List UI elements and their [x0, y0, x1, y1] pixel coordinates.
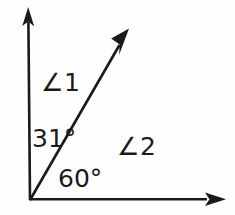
angle-1-label: ∠1 [41, 70, 80, 95]
angle-2-label: ∠2 [117, 134, 156, 159]
scan-artifact-band [0, 206, 235, 215]
horizontal-ray [29, 193, 226, 206]
angle-diagram-figure: ∠1 31° 60° ∠2 [0, 0, 235, 215]
horizontal-ray-arrowhead [205, 193, 226, 206]
angle-2-measure-label: 60° [58, 166, 102, 191]
vertical-ray-shaft [28, 22, 30, 200]
diagonal-ray-arrowhead [111, 29, 129, 55]
angle-1-measure-label: 31° [32, 126, 76, 151]
vertical-ray [22, 7, 34, 200]
angle-diagram-canvas [0, 0, 235, 215]
